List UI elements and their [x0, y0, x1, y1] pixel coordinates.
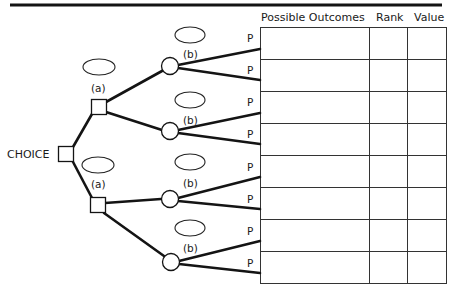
probability-label-4: P — [247, 128, 253, 140]
decision-square-lower-icon — [91, 198, 106, 213]
column-header-rank: Rank — [376, 11, 404, 24]
probability-label-8: P — [247, 257, 253, 269]
label-b3: (b) — [183, 177, 198, 189]
probability-label-1: P — [247, 32, 253, 44]
branch-a1-b1 — [106, 71, 162, 102]
root-decision-square-icon — [59, 147, 74, 162]
chance-circle-b1-icon — [162, 58, 179, 75]
label-b2: (b) — [183, 114, 198, 126]
label-a-upper: (a) — [91, 82, 106, 94]
blank-oval-b3[interactable] — [175, 154, 205, 170]
label-b4: (b) — [183, 242, 198, 254]
probability-label-7: P — [247, 225, 253, 237]
probability-label-2: P — [247, 64, 253, 76]
chance-circle-b2-icon — [162, 123, 179, 140]
decision-square-upper-icon — [92, 100, 107, 115]
label-a-lower: (a) — [91, 178, 106, 190]
label-b1: (b) — [183, 48, 198, 60]
branch-a1-b2 — [106, 112, 162, 130]
decision-tree-diagram: Possible Outcomes Rank Value CHOICE (a) … — [0, 0, 454, 290]
probability-label-5: P — [247, 161, 253, 173]
blank-oval-b2[interactable] — [175, 92, 205, 108]
choice-label: CHOICE — [7, 148, 50, 161]
blank-oval-a-lower[interactable] — [82, 157, 114, 173]
column-header-outcomes: Possible Outcomes — [261, 11, 365, 24]
branch-a2-b3 — [105, 199, 161, 203]
blank-oval-b1[interactable] — [175, 27, 205, 43]
branch-root-upper — [73, 114, 92, 147]
branch-a2-b4 — [104, 213, 164, 256]
column-header-value: Value — [414, 11, 444, 24]
probability-label-3: P — [247, 96, 253, 108]
blank-oval-b4[interactable] — [175, 220, 205, 236]
outcomes-table — [261, 28, 447, 284]
chance-circle-b3-icon — [162, 191, 179, 208]
probability-label-6: P — [247, 193, 253, 205]
blank-oval-a-upper[interactable] — [83, 59, 115, 75]
chance-circle-b4-icon — [163, 254, 180, 271]
